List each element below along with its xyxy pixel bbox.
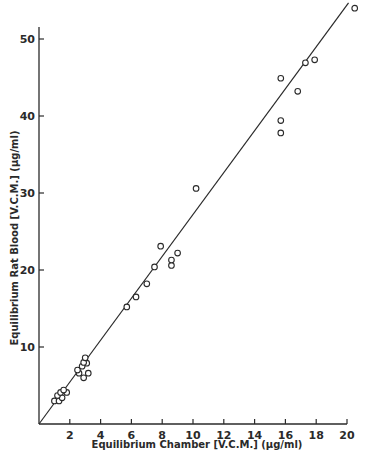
data-point-circle bbox=[158, 243, 164, 249]
data-point-circle bbox=[81, 375, 87, 381]
x-tick-label: 18 bbox=[309, 429, 324, 442]
data-point-circle bbox=[169, 263, 175, 269]
data-point-circle bbox=[278, 75, 284, 81]
y-tick-label: 50 bbox=[20, 33, 36, 46]
y-axis-ticks: 1020304050 bbox=[20, 33, 44, 354]
x-tick-label: 2 bbox=[66, 429, 74, 442]
data-point-circle bbox=[278, 118, 284, 124]
data-point-circle bbox=[85, 370, 91, 376]
data-point-circle bbox=[82, 355, 88, 361]
y-tick-label: 10 bbox=[20, 341, 36, 354]
data-point-circle bbox=[152, 264, 158, 270]
data-point-circle bbox=[124, 304, 130, 310]
data-point-circle bbox=[169, 257, 175, 263]
y-tick-label: 20 bbox=[20, 264, 36, 277]
data-point-circle bbox=[61, 387, 67, 393]
x-axis-label: Equilibrium Chamber [V.C.M.] (µg/ml) bbox=[92, 439, 303, 450]
data-point-circle bbox=[295, 89, 301, 95]
data-point-circle bbox=[303, 60, 309, 66]
data-point-circle bbox=[175, 250, 181, 256]
y-tick-label: 40 bbox=[20, 110, 36, 123]
data-point-circle bbox=[352, 5, 358, 11]
data-point-circle bbox=[312, 57, 318, 63]
data-point-circle bbox=[144, 281, 150, 287]
data-point-circle bbox=[133, 294, 139, 300]
data-point-circle bbox=[193, 186, 199, 192]
data-point-circle bbox=[278, 130, 284, 136]
y-axis-label: Equilibrium Rat Blood [V.C.M.] (µg/ml) bbox=[9, 131, 20, 346]
x-tick-label: 20 bbox=[339, 429, 355, 442]
y-tick-label: 30 bbox=[20, 187, 36, 200]
scatter-chart: 2468101214161820 1020304050 Equilibrium … bbox=[0, 0, 370, 455]
